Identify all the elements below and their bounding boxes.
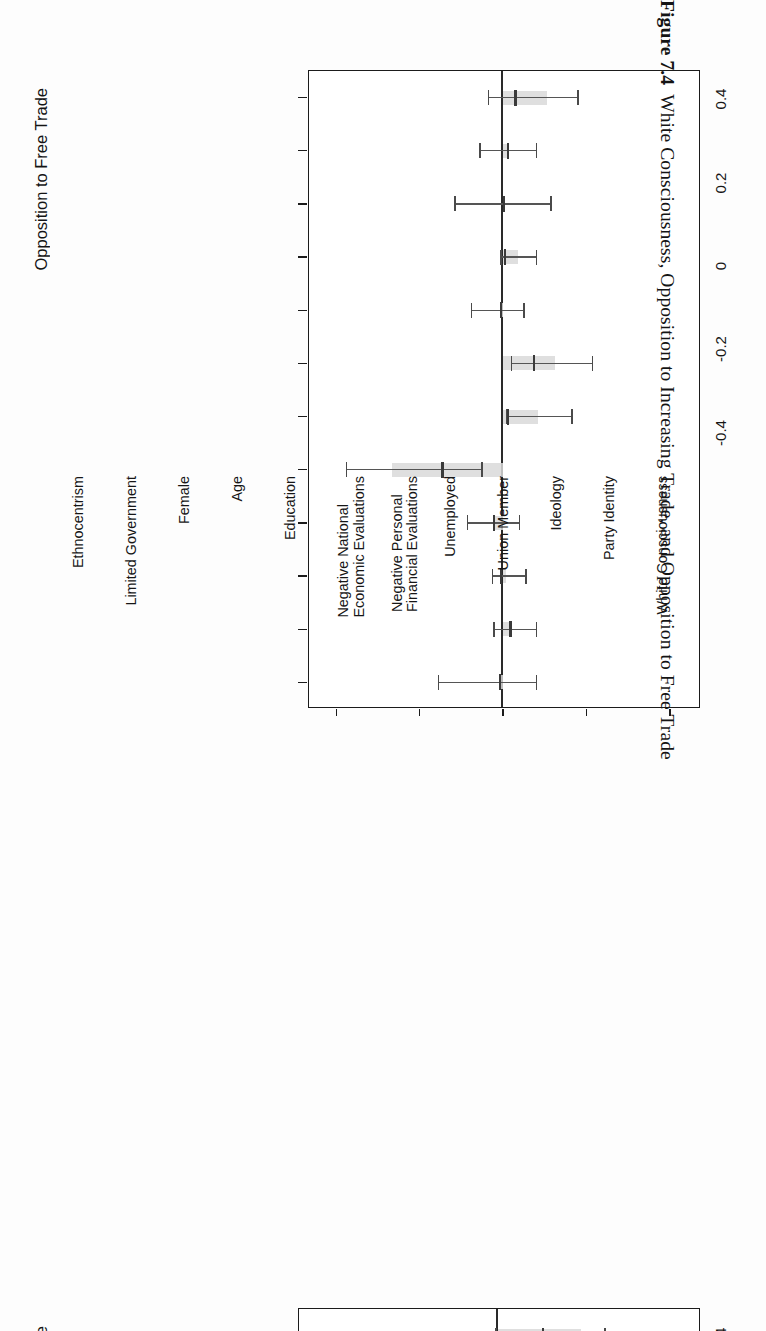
category-label: Party Identity xyxy=(602,476,638,560)
ci-lower-cap xyxy=(454,196,456,211)
category-label: Unemployed xyxy=(443,476,479,557)
ci-lower-cap xyxy=(471,303,473,318)
value-axis-tick-label: 0.4 xyxy=(712,89,729,110)
ci-lower-cap xyxy=(500,250,502,265)
value-axis-tick-label: -0.4 xyxy=(712,420,729,446)
point-estimate-marker xyxy=(504,249,506,265)
category-axis-tick xyxy=(298,150,307,151)
category-label-line: Ideology xyxy=(549,476,565,530)
ci-upper-cap xyxy=(523,303,525,318)
point-estimate-marker xyxy=(507,409,509,425)
value-axis-tick-label: 0.2 xyxy=(712,172,729,193)
ci-lower-cap xyxy=(511,356,513,371)
category-label-line: Financial Evaluations xyxy=(405,476,421,612)
ci-lower-cap xyxy=(479,143,481,158)
point-estimate-marker xyxy=(514,90,516,106)
category-label: Female xyxy=(177,476,213,524)
point-estimate-marker xyxy=(533,355,535,371)
category-label-line: Limited Government xyxy=(124,476,140,606)
category-label: Ideology xyxy=(549,476,585,530)
ci-upper-cap xyxy=(577,90,579,105)
panel-axis-title: Opposition to Free Trade xyxy=(32,88,51,271)
ci-lower-cap xyxy=(492,569,494,584)
figure-caption: Figure 7.4 White Consciousness, Oppositi… xyxy=(635,0,699,1331)
figure-page: -0.4-0.200.20.4White ConsciousnessParty … xyxy=(0,0,766,1331)
category-axis-tick xyxy=(298,97,307,98)
confidence-interval-line xyxy=(493,575,526,576)
confidence-interval-line xyxy=(511,363,592,364)
category-axis-tick xyxy=(298,575,307,576)
category-axis-tick xyxy=(298,310,307,311)
category-label-line: Age xyxy=(230,476,246,502)
ci-upper-cap xyxy=(592,356,594,371)
point-estimate-marker xyxy=(507,143,509,159)
figure-number: Figure 7.4 xyxy=(656,0,678,85)
point-estimate-marker xyxy=(500,302,502,318)
category-label-line: Female xyxy=(177,476,193,524)
point-estimate-marker xyxy=(503,196,505,212)
category-label-line: Negative Personal xyxy=(390,476,406,612)
category-axis-tick xyxy=(298,469,307,470)
ci-upper-cap xyxy=(525,569,527,584)
confidence-interval-line xyxy=(488,97,578,98)
point-estimate-marker xyxy=(500,568,502,584)
category-label: Union Member xyxy=(496,476,532,570)
point-estimate-marker xyxy=(542,1328,544,1331)
category-axis-tick xyxy=(298,203,307,204)
figure-caption-text: White Consciousness, Opposition to Incre… xyxy=(656,94,678,760)
ci-upper-cap xyxy=(536,250,538,265)
ci-lower-cap xyxy=(488,90,490,105)
value-axis-tick-label: 0.4 xyxy=(712,1327,729,1331)
category-axis-tick xyxy=(298,256,307,257)
ci-upper-cap xyxy=(571,409,573,424)
category-axis-tick xyxy=(298,416,307,417)
category-label-line: Economic Evaluations xyxy=(352,476,368,618)
zero-reference-line xyxy=(501,71,503,707)
category-label: Negative NationalEconomic Evaluations xyxy=(336,476,372,618)
category-label-line: Union Member xyxy=(496,476,512,570)
confidence-interval-line xyxy=(501,256,536,257)
category-label: Education xyxy=(283,476,319,540)
panel-axis-title: Opposition to Increasing Trade xyxy=(32,1326,51,1331)
confidence-interval-line xyxy=(472,310,524,311)
ci-upper-cap xyxy=(550,196,552,211)
category-label-line: Ethnocentrism xyxy=(71,476,87,568)
confidence-interval-line xyxy=(347,469,483,470)
category-label: Age xyxy=(230,476,266,502)
category-label-line: Education xyxy=(283,476,299,540)
ci-upper-cap xyxy=(481,462,483,477)
category-label-line: Party Identity xyxy=(602,476,618,560)
value-axis-tick-label: -0.2 xyxy=(712,336,729,362)
category-label-line: Unemployed xyxy=(443,476,459,557)
category-label-line: Negative National xyxy=(336,476,352,618)
category-axis-tick xyxy=(298,363,307,364)
confidence-interval-line xyxy=(507,416,572,417)
category-label: Ethnocentrism xyxy=(71,476,107,568)
value-axis-tick-label: 0 xyxy=(712,262,729,270)
category-label: Negative PersonalFinancial Evaluations xyxy=(390,476,426,612)
category-label: Limited Government xyxy=(124,476,160,606)
ci-upper-cap xyxy=(536,143,538,158)
ci-lower-cap xyxy=(346,462,348,477)
